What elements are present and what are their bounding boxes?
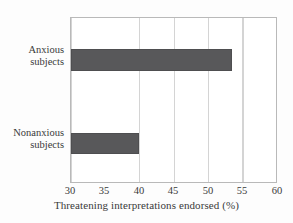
category-label-anxious-subjects: Anxious subjects (28, 44, 64, 67)
xtick-label-55: 55 (229, 185, 255, 197)
gridline-30 (71, 18, 72, 182)
category-label-anxious-line1: Anxious (28, 44, 64, 56)
xtick-label-50: 50 (195, 185, 221, 197)
xtick-label-45: 45 (160, 185, 186, 197)
category-label-nonanxious-line1: Nonanxious (13, 127, 64, 139)
gridline-55 (243, 18, 244, 182)
bar-anxious-subjects (71, 49, 232, 71)
plot-area (70, 17, 277, 183)
gridline-45 (208, 18, 209, 182)
category-label-nonanxious-subjects: Nonanxious subjects (13, 127, 64, 150)
bar-chart-figure: Anxious subjects Nonanxious subjects 30 … (0, 0, 293, 223)
gridline-35 (139, 18, 140, 182)
gridline-40 (174, 18, 175, 182)
xtick-label-35: 35 (91, 185, 117, 197)
bar-nonanxious-subjects (71, 133, 139, 154)
xtick-label-30: 30 (57, 185, 83, 197)
category-label-nonanxious-line2: subjects (13, 139, 64, 151)
x-axis-label: Threatening interpretations endorsed (%) (0, 199, 293, 211)
xtick-label-40: 40 (126, 185, 152, 197)
category-label-anxious-line2: subjects (28, 56, 64, 68)
xtick-label-60: 60 (264, 185, 290, 197)
